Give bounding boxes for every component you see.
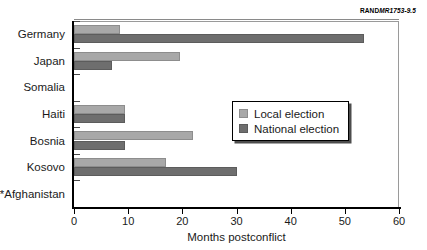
figure-source-number: MR1753-9.5: [379, 7, 416, 14]
category-row: Somalia: [74, 74, 399, 101]
figure-source-brand: RAND: [360, 7, 379, 14]
legend-swatch-national-icon: [239, 124, 248, 133]
y-axis-tick: [74, 21, 80, 22]
x-axis-tick: [291, 209, 292, 214]
bar-national: [74, 61, 112, 70]
category-label: Bosnia: [30, 135, 65, 147]
x-axis-tick-label: 0: [71, 215, 77, 227]
x-axis-tick-label: 60: [393, 215, 405, 227]
bar-national: [74, 141, 125, 150]
legend-item-local: Local election: [239, 106, 339, 121]
legend-item-national: National election: [239, 121, 339, 136]
figure-source-code: RANDMR1753-9.5: [360, 7, 416, 14]
x-axis-tick: [237, 209, 238, 214]
legend-label-local: Local election: [254, 108, 324, 120]
x-axis-title: Months postconflict: [74, 231, 399, 243]
figure-bar-chart: RANDMR1753-9.5 GermanyJapanSomaliaHaitiB…: [0, 0, 427, 250]
x-axis-tick-label: 50: [339, 215, 351, 227]
x-axis-tick-label: 30: [230, 215, 242, 227]
y-axis-tick: [74, 48, 80, 49]
category-label: *Afghanistan: [0, 188, 65, 200]
y-axis-tick: [74, 74, 80, 75]
category-row: Kosovo: [74, 154, 399, 181]
y-axis-tick: [74, 101, 80, 102]
chart-legend: Local election National election: [232, 101, 349, 141]
category-label: Haiti: [42, 108, 65, 120]
bar-local: [74, 25, 120, 34]
source-rule: [74, 19, 399, 20]
category-label: Germany: [18, 28, 65, 40]
bar-national: [74, 167, 237, 176]
category-row: Germany: [74, 21, 399, 48]
x-axis-tick-label: 10: [122, 215, 134, 227]
x-axis-tick: [345, 209, 346, 214]
category-row: Japan: [74, 48, 399, 75]
legend-swatch-local-icon: [239, 109, 248, 118]
bar-local: [74, 52, 180, 61]
x-axis-tick: [74, 209, 75, 214]
y-axis-tick: [74, 127, 80, 128]
bar-national: [74, 34, 364, 43]
category-row: *Afghanistan: [74, 180, 399, 207]
y-axis-tick: [74, 154, 80, 155]
bar-local: [74, 105, 125, 114]
x-axis-tick: [399, 209, 400, 214]
bar-local: [74, 131, 193, 140]
category-label: Somalia: [23, 81, 65, 93]
x-axis-tick-label: 20: [176, 215, 188, 227]
x-axis-tick-label: 40: [285, 215, 297, 227]
category-label: Kosovo: [27, 161, 65, 173]
bar-national: [74, 114, 125, 123]
x-axis-tick: [182, 209, 183, 214]
category-label: Japan: [34, 55, 65, 67]
x-axis-tick: [128, 209, 129, 214]
bar-local: [74, 158, 166, 167]
legend-label-national: National election: [254, 123, 339, 135]
y-axis-tick: [74, 180, 80, 181]
